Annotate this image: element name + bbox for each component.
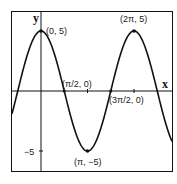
label-point-pi-neg5: (π, −5) — [74, 157, 101, 167]
label-point-3pi2-0: (3π/2, 0) — [109, 95, 144, 105]
label-point-2pi-5: (2π, 5) — [120, 14, 147, 24]
label-point-pi2-0: (π/2, 0) — [62, 79, 92, 89]
y-tick-label-neg5: −5 — [24, 147, 34, 157]
x-axis-label: x — [162, 77, 168, 91]
point-3pi2-0 — [109, 90, 112, 93]
point-0-5 — [39, 29, 43, 33]
point-pi2-0 — [63, 90, 66, 93]
point-2pi-5 — [132, 29, 136, 33]
point-pi-neg5 — [86, 149, 90, 153]
label-point-0-5: (0, 5) — [46, 26, 67, 36]
y-axis-label: y — [33, 11, 39, 25]
cosine-graph: y x −5 (0, 5) (2π, 5) (π, −5) (π/2, 0) (… — [0, 0, 177, 184]
